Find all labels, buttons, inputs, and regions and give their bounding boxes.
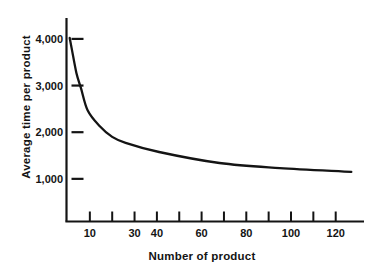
x-axis-title: Number of product: [122, 250, 282, 262]
line-chart-canvas: 4,0003,0002,0001,0001030406080100120: [0, 0, 379, 280]
y-tick-label: 3,000: [35, 80, 63, 92]
x-tick-label: 10: [84, 227, 96, 239]
y-tick-label: 4,000: [35, 33, 63, 45]
chart-figure: 4,0003,0002,0001,0001030406080100120 Ave…: [0, 0, 379, 280]
x-tick-label: 40: [151, 227, 163, 239]
x-tick-label: 30: [128, 227, 140, 239]
average-time-curve: [70, 38, 352, 172]
x-tick-label: 100: [282, 227, 300, 239]
x-tick-label: 60: [195, 227, 207, 239]
x-tick-label: 80: [240, 227, 252, 239]
y-tick-label: 1,000: [35, 173, 63, 185]
x-tick-label: 120: [327, 227, 345, 239]
y-axis-title: Average time per product: [20, 22, 32, 192]
y-tick-label: 2,000: [35, 126, 63, 138]
